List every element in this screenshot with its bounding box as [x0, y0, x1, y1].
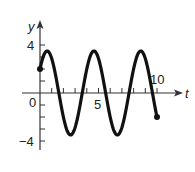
chart: y t 4 −4 0 5 10: [0, 0, 195, 172]
x-axis-label: t: [185, 86, 190, 101]
y-tick-label-neg4: −4: [19, 134, 34, 149]
y-axis-label: y: [27, 19, 36, 34]
origin-label: 0: [29, 95, 36, 110]
start-point: [37, 66, 43, 72]
end-point: [154, 114, 160, 120]
x-tick-label-5: 5: [94, 97, 101, 112]
y-tick-label-4: 4: [27, 38, 34, 53]
